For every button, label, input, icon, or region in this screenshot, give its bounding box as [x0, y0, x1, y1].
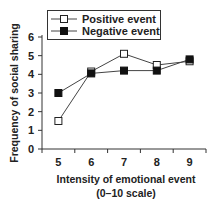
open-square-marker	[121, 50, 128, 57]
legend-label: Positive event	[82, 13, 156, 25]
x-tick-label: 9	[187, 156, 193, 168]
y-tick-label: 6	[28, 31, 34, 43]
x-tick-label: 5	[55, 156, 61, 168]
x-axis-title-line2: (0–10 scale)	[96, 187, 156, 199]
series-line	[58, 59, 189, 93]
filled-square-marker	[121, 67, 128, 74]
filled-square-marker	[153, 67, 160, 74]
legend-label: Negative event	[82, 25, 160, 37]
line-chart: 0123456 56789 Positive eventNegative eve…	[0, 0, 217, 208]
series-layer	[55, 50, 193, 124]
x-tick-label: 8	[154, 156, 160, 168]
y-tick-label: 5	[28, 50, 34, 62]
series-line	[58, 54, 189, 121]
x-tick-label: 7	[121, 156, 127, 168]
legend: Positive eventNegative event	[48, 11, 161, 40]
y-tick-label: 0	[28, 143, 34, 155]
filled-square-marker	[88, 70, 95, 77]
filled-square-marker	[186, 56, 193, 63]
open-square-marker	[55, 118, 62, 125]
filled-square-marker	[55, 90, 62, 97]
y-tick-label: 4	[28, 68, 35, 80]
y-axis-title: Frequency of social sharing	[8, 23, 20, 162]
x-axis-title-line1: Intensity of emotional event	[57, 173, 196, 185]
y-axis: 0123456	[28, 31, 42, 155]
x-tick-label: 6	[88, 156, 94, 168]
y-tick-label: 1	[28, 124, 34, 136]
legend-filled-square-icon	[61, 28, 68, 35]
y-tick-label: 3	[28, 87, 34, 99]
y-tick-label: 2	[28, 106, 34, 118]
legend-open-square-icon	[61, 16, 68, 23]
x-axis: 56789	[42, 149, 206, 168]
